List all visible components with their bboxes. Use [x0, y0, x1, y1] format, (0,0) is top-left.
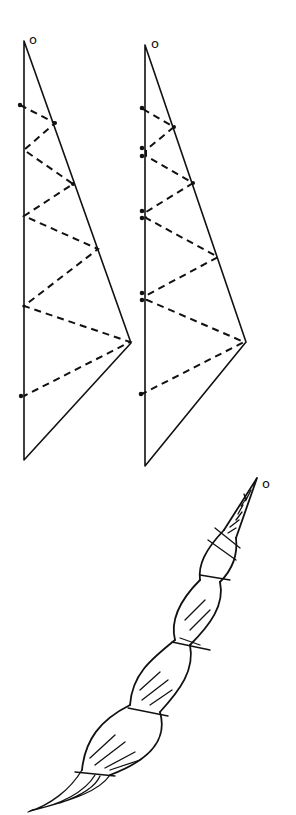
twisted-strip: o	[28, 476, 270, 812]
twisted-apex-label: o	[262, 476, 270, 491]
right-triangle-outline	[145, 45, 246, 466]
left-triangle: o	[18, 32, 131, 460]
left-triangle-outline	[24, 41, 131, 460]
right-fold-lines	[142, 109, 244, 394]
right-apex-label: o	[151, 36, 159, 51]
left-apex-label: o	[29, 32, 37, 47]
right-triangle: o	[139, 36, 246, 466]
left-fold-lines	[20, 105, 130, 396]
diagram-canvas: o o o	[0, 0, 296, 815]
